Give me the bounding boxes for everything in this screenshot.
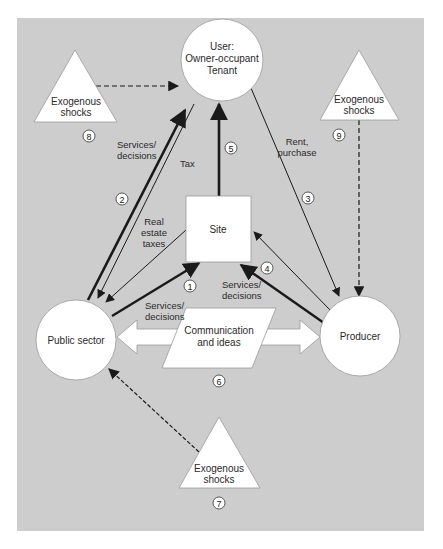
shock-bottom-label-line1: Exogenous (194, 463, 244, 474)
svg-text:5: 5 (228, 144, 233, 154)
label-services-decisions-4-line1: Services/ (222, 279, 261, 290)
number-badge-5: 5 (225, 142, 237, 154)
number-badge-8: 8 (83, 130, 95, 142)
number-badge-1: 1 (184, 280, 196, 292)
label-real-estate-taxes-line3: taxes (143, 238, 166, 249)
label-services-decisions-2-line1: Services/ (117, 139, 156, 150)
shock-top-right-label-line2: shocks (343, 105, 374, 116)
label-services-decisions-1-line2: decisions (145, 311, 185, 322)
label-real-estate-taxes-line1: Real (144, 216, 164, 227)
number-badge-3: 3 (302, 192, 314, 204)
label-tax: Tax (180, 158, 195, 169)
producer-label: Producer (340, 331, 381, 342)
number-badge-4: 4 (261, 262, 273, 274)
communication-label-line2: and ideas (197, 337, 240, 348)
label-rent-purchase-line2: purchase (277, 147, 316, 158)
communication-label-line1: Communication (184, 325, 253, 336)
real-estate-relationships-diagram: Communication and ideas User: Owner-occu… (0, 0, 443, 549)
number-badge-6: 6 (213, 375, 225, 387)
svg-text:8: 8 (86, 132, 91, 142)
public-sector-label: Public sector (47, 335, 105, 346)
site-label: Site (209, 224, 227, 235)
label-services-decisions-2-line2: decisions (117, 150, 157, 161)
number-badge-2: 2 (116, 193, 128, 205)
svg-text:2: 2 (119, 195, 124, 205)
shock-top-left-label-line1: Exogenous (51, 96, 101, 107)
shock-bottom-label-line2: shocks (203, 474, 234, 485)
number-badge-9: 9 (333, 129, 345, 141)
shock-top-left-label-line2: shocks (60, 107, 91, 118)
number-badge-7: 7 (213, 497, 225, 509)
svg-text:1: 1 (187, 282, 192, 292)
user-label-line1: User: (210, 41, 234, 52)
shock-top-right-label-line1: Exogenous (334, 94, 384, 105)
svg-text:7: 7 (216, 499, 221, 509)
label-rent-purchase-line1: Rent, (286, 136, 309, 147)
label-real-estate-taxes-line2: estate (141, 227, 167, 238)
label-services-decisions-4-line2: decisions (222, 290, 262, 301)
user-label-line2: Owner-occupant (185, 53, 259, 64)
svg-text:4: 4 (264, 264, 269, 274)
user-label-line3: Tenant (207, 65, 237, 76)
svg-text:6: 6 (216, 377, 221, 387)
label-services-decisions-1-line1: Services/ (145, 300, 184, 311)
svg-text:9: 9 (336, 131, 341, 141)
svg-text:3: 3 (305, 194, 310, 204)
